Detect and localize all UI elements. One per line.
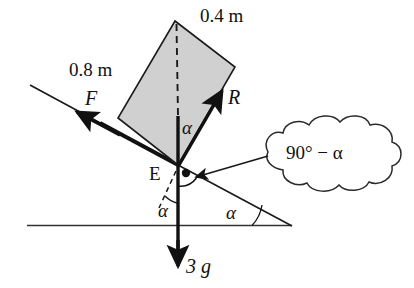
label-length-top: 0.4 m: [200, 5, 244, 26]
angle-arc-at-E: [178, 178, 197, 186]
label-angle-alpha-vertical: α: [158, 200, 169, 221]
angle-dot-icon: [182, 169, 190, 177]
label-length-side: 0.8 m: [69, 59, 113, 80]
friction-force-arrow: [77, 112, 120, 135]
physics-diagram: 0.4 m 0.8 m F R 3 g E α α α 90° − α: [0, 0, 414, 288]
diagram-canvas: 0.4 m 0.8 m F R 3 g E α α α 90° − α: [0, 0, 414, 288]
label-force-reaction: R: [227, 86, 240, 108]
label-weight: 3 g: [185, 255, 211, 278]
label-angle-alpha-plate: α: [182, 117, 193, 138]
callout-pointer-arrow: [196, 156, 268, 177]
label-point-E: E: [149, 163, 161, 184]
label-angle-alpha-incline: α: [226, 202, 237, 223]
label-callout-text: 90° − α: [286, 142, 343, 163]
label-force-friction: F: [84, 87, 98, 109]
